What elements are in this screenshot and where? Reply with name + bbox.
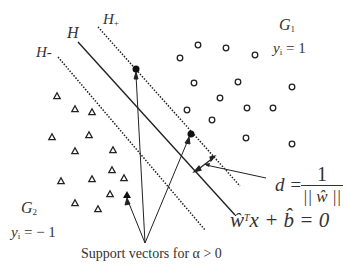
g1-y-label: yi = 1 — [273, 41, 306, 57]
support-vectors-caption: Support vectors for α > 0 — [81, 247, 222, 261]
triangle-point — [89, 109, 95, 115]
circle-point — [195, 42, 201, 48]
support-vector-triangles — [123, 191, 131, 198]
g1-label: G1 — [279, 17, 295, 34]
eq-w: ŵ — [230, 208, 244, 232]
support-vector-arrows — [125, 72, 190, 243]
margin-d-label: d = — [275, 175, 302, 194]
triangle-point — [95, 206, 101, 212]
g2-label: G2 — [21, 200, 37, 217]
circle-point — [252, 52, 258, 58]
h-minus-boundary-line — [58, 57, 205, 230]
hyperplane-equation: ŵTx + b̂ = 0 — [230, 210, 329, 231]
g1-y: y — [273, 40, 280, 56]
triangle-point — [86, 132, 92, 138]
circle-point — [243, 135, 249, 141]
h-plus-boundary-line — [98, 27, 240, 186]
triangle-point — [121, 175, 127, 181]
triangle-point — [107, 191, 113, 197]
circle-point — [270, 105, 276, 111]
h-hyperplane-line — [78, 42, 235, 215]
g1-y-val: = 1 — [282, 40, 305, 56]
circle-point — [209, 117, 215, 123]
support-vector-circle — [188, 131, 195, 138]
margin-fraction: 1 || ŵ || — [301, 164, 343, 206]
support-vector-circle — [133, 66, 140, 73]
triangle-point — [110, 147, 116, 153]
circle-point — [244, 105, 250, 111]
triangle-point — [72, 106, 78, 112]
support-vector-circles — [133, 66, 195, 138]
eq-rest: x + b̂ = 0 — [250, 208, 330, 232]
class-g1-points — [177, 42, 295, 147]
triangle-point — [89, 176, 95, 182]
class-g2-points — [49, 93, 127, 212]
h-label: H — [67, 25, 79, 41]
circle-point — [177, 55, 183, 61]
d-pointer-line — [206, 165, 266, 178]
fraction-bar — [301, 185, 343, 186]
g2-letter: G — [21, 199, 33, 216]
g2-sub: 2 — [33, 207, 38, 217]
margin-numerator: 1 — [317, 164, 327, 184]
circle-point — [191, 80, 197, 86]
triangle-point — [58, 178, 64, 184]
circle-point — [289, 141, 295, 147]
circle-point — [223, 45, 229, 51]
circle-point — [184, 107, 190, 113]
h-plus-letter: H — [103, 11, 114, 27]
g1-sub: 1 — [291, 24, 296, 34]
g2-y-val: = − 1 — [20, 224, 56, 240]
triangle-point — [49, 134, 55, 140]
h-plus-label: H+ — [103, 12, 119, 28]
triangle-point — [109, 167, 115, 173]
support-vector-triangle — [123, 191, 131, 198]
circle-point — [235, 79, 241, 85]
g2-y: y — [11, 224, 18, 240]
margin-denominator: || ŵ || — [303, 188, 342, 206]
h-plus-sub: + — [114, 18, 119, 28]
g1-letter: G — [279, 16, 291, 33]
circle-point — [289, 84, 295, 90]
h-minus-label: H- — [36, 45, 52, 60]
triangle-point — [72, 200, 78, 206]
triangle-point — [54, 93, 60, 99]
g2-y-label: yi = − 1 — [11, 225, 56, 241]
circle-point — [217, 95, 223, 101]
triangle-point — [72, 148, 78, 154]
